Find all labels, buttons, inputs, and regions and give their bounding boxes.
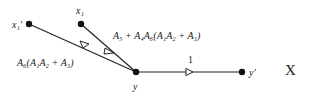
node-x1p: [26, 21, 32, 27]
node-label-yp: y′: [248, 67, 256, 78]
node-label-y: y: [132, 81, 138, 92]
edge-label-x1-y: A₅ + A₄A₆(A₁A₂ + A₃): [112, 30, 201, 42]
node-x1: [78, 21, 84, 27]
signal-flow-graph: x₁′ x₁ y y′ A₆(A₁A₂ + A₃) A₅ + A₄A₆(A₁A₂…: [0, 0, 318, 100]
edge-label-x1p-y: A₆(A₁A₂ + A₃): [16, 57, 74, 69]
node-y: [133, 69, 139, 75]
node-label-x1: x₁: [75, 5, 84, 16]
edge-label-y-yp: 1: [188, 54, 193, 65]
arrow-icon: [186, 69, 193, 76]
node-label-x1p: x₁′: [11, 19, 23, 30]
node-yp: [239, 69, 245, 75]
figure-marker: X: [285, 62, 296, 78]
